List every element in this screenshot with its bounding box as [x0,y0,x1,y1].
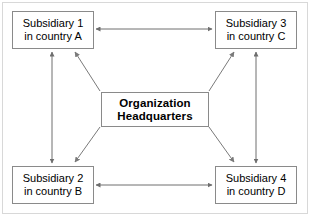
connector-hq-to-sub3 [209,52,234,91]
node-subsidiary-2-line2: in country B [24,185,82,198]
node-headquarters-line2: Headquarters [117,110,192,123]
node-subsidiary-2[interactable]: Subsidiary 2 in country B [12,166,94,204]
node-subsidiary-4-line1: Subsidiary 4 [226,172,287,185]
node-subsidiary-1-line1: Subsidiary 1 [23,17,84,30]
node-subsidiary-3-line1: Subsidiary 3 [226,17,287,30]
connector-hq-to-sub4 [209,127,234,162]
node-subsidiary-4-line2: in country D [227,185,286,198]
node-headquarters-line1: Organization [119,97,190,110]
node-subsidiary-3-line2: in country C [227,30,286,43]
connector-hq-to-sub2 [75,127,100,162]
node-subsidiary-3[interactable]: Subsidiary 3 in country C [215,11,297,49]
node-subsidiary-4[interactable]: Subsidiary 4 in country D [215,166,297,204]
node-subsidiary-2-line1: Subsidiary 2 [23,172,84,185]
node-subsidiary-1[interactable]: Subsidiary 1 in country A [12,11,94,49]
node-subsidiary-1-line2: in country A [24,30,81,43]
connector-hq-to-sub1 [75,52,100,91]
node-organization-headquarters[interactable]: Organization Headquarters [101,92,209,127]
diagram-canvas: Subsidiary 1 in country A Subsidiary 3 i… [0,0,310,216]
